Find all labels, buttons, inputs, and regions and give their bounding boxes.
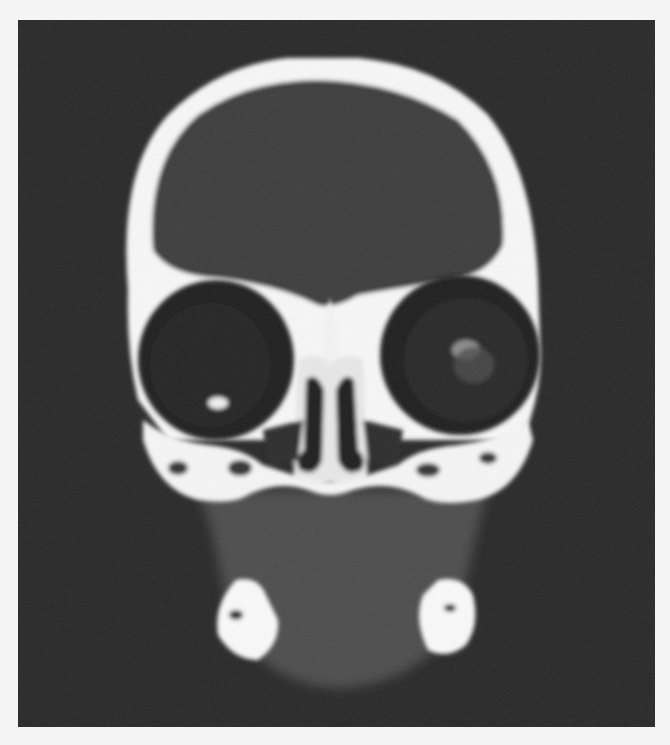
scan-noise <box>18 20 655 727</box>
ct-scan-image <box>18 20 655 727</box>
